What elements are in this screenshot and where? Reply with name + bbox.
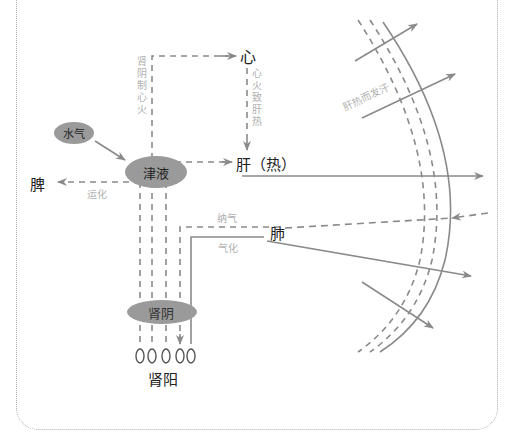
node-heart: 心 xyxy=(240,44,256,68)
label-yunhua: 运化 xyxy=(87,186,107,201)
shuiqi-to-jinye-arrow xyxy=(95,141,125,160)
shenyin-to-heart-path xyxy=(152,56,228,170)
node-spleen: 脾 xyxy=(30,173,45,194)
diagram-canvas xyxy=(0,0,512,435)
sweat-arrows xyxy=(242,24,483,328)
node-shenyin: 肾阴 xyxy=(148,303,174,322)
node-shuiqi: 水气 xyxy=(63,125,85,141)
node-shenyang: 肾阳 xyxy=(148,368,178,389)
body-surface-arcs xyxy=(358,20,451,352)
node-lung: 肺 xyxy=(270,222,285,243)
naqi-dashed-wall xyxy=(452,213,488,218)
shenyang-circles xyxy=(136,349,195,363)
label-qihua: 气化 xyxy=(218,240,238,255)
label-xinhuo-zhi-ganre: 心火致肝热 xyxy=(252,68,264,128)
label-naqi: 纳气 xyxy=(217,210,237,225)
node-jinye: 津液 xyxy=(143,163,169,182)
node-liver: 肝（热） xyxy=(236,153,296,174)
lung-dashed-to-wall xyxy=(285,218,452,228)
label-shenyin-zhi-xinhuo: 肾阴制心火 xyxy=(137,56,149,116)
